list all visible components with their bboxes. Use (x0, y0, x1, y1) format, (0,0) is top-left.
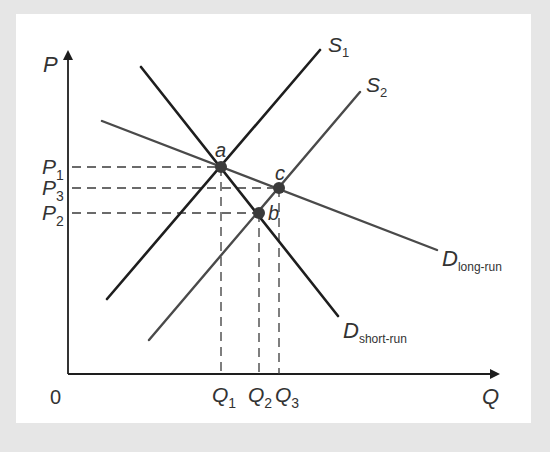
x-axis-label: Q (482, 384, 499, 409)
supply-demand-diagram: P Q 0 P1 P3 P2 Q1 Q2 Q3 S1 S2 Dlong-run … (0, 0, 550, 452)
d-long-run-label: Dlong-run (442, 246, 502, 274)
point-a-dot (215, 161, 227, 173)
s1-curve (107, 50, 320, 299)
q3-label: Q3 (275, 383, 299, 411)
y-axis-label: P (43, 52, 58, 77)
d-short-run-curve (141, 67, 338, 316)
s1-label: S1 (328, 33, 349, 60)
q2-label: Q2 (248, 383, 272, 411)
point-a-label: a (215, 139, 226, 161)
point-b-dot (253, 207, 265, 219)
origin-label: 0 (50, 386, 61, 408)
point-c-label: c (275, 162, 285, 184)
p2-label: P2 (42, 201, 64, 229)
d-short-run-label: Dshort-run (343, 318, 407, 346)
point-b-label: b (268, 202, 279, 224)
q1-label: Q1 (212, 383, 236, 411)
s2-label: S2 (366, 73, 387, 100)
